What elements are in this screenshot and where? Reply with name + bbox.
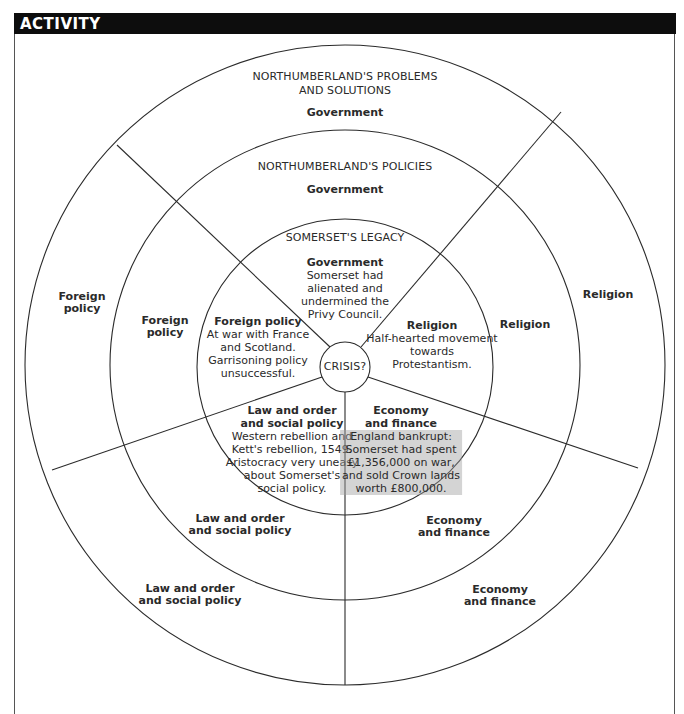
outer-ring-title-2: AND SOLUTIONS	[299, 84, 391, 97]
inner-foreign-line: unsuccessful.	[207, 367, 309, 380]
inner-law-line: Western rebellion and	[226, 430, 359, 443]
inner-foreign-line: At war with France	[207, 328, 309, 341]
outer-religion: Religion	[583, 288, 634, 301]
inner-ring-title: SOMERSET'S LEGACY	[286, 231, 405, 244]
inner-foreign-heading: Foreign policy	[207, 315, 309, 328]
inner-economy: Economy and finance England bankrupt: So…	[340, 404, 462, 495]
outer-economy-2: and finance	[464, 595, 536, 608]
inner-foreign: Foreign policy At war with France and Sc…	[207, 315, 309, 380]
outer-government: Government	[307, 106, 383, 119]
inner-law-line: Kett's rebellion, 1549.	[226, 443, 359, 456]
inner-religion-line: Half-hearted movement	[366, 332, 497, 345]
inner-economy-highlight: England bankrupt: Somerset had spent £1,…	[340, 430, 462, 495]
inner-foreign-line: and Scotland.	[207, 341, 309, 354]
middle-government: Government	[307, 183, 383, 196]
spoke-upper-right	[361, 112, 561, 347]
outer-ring-title-1: NORTHUMBERLAND'S PROBLEMS	[252, 70, 437, 83]
outer-foreign-2: policy	[64, 302, 101, 315]
inner-religion-heading: Religion	[366, 319, 497, 332]
inner-government-heading: Government	[301, 256, 389, 269]
inner-government: Government Somerset had alienated and un…	[301, 256, 389, 321]
outer-law-2: and social policy	[138, 594, 241, 607]
inner-government-line: alienated and	[301, 282, 389, 295]
inner-law-line: social policy.	[226, 482, 359, 495]
inner-economy-line: Somerset had spent	[342, 443, 460, 456]
inner-economy-line: worth £800,000.	[342, 482, 460, 495]
inner-law-heading-1: Law and order	[226, 404, 359, 417]
inner-government-line: undermined the	[301, 295, 389, 308]
inner-economy-heading-1: Economy	[340, 404, 462, 417]
inner-law-line: about Somerset's	[226, 469, 359, 482]
middle-law-2: and social policy	[188, 524, 291, 537]
inner-law: Law and order and social policy Western …	[226, 404, 359, 495]
inner-law-heading-2: and social policy	[226, 417, 359, 430]
inner-government-line: Somerset had	[301, 269, 389, 282]
middle-economy-2: and finance	[418, 526, 490, 539]
inner-religion-line: towards	[366, 345, 497, 358]
middle-ring-title: NORTHUMBERLAND'S POLICIES	[258, 160, 433, 173]
inner-foreign-line: Garrisoning policy	[207, 354, 309, 367]
inner-religion-line: Protestantism.	[366, 358, 497, 371]
inner-law-line: Aristocracy very uneasy	[226, 456, 359, 469]
crisis-label: CRISIS?	[324, 360, 366, 373]
inner-economy-heading-2: and finance	[340, 417, 462, 430]
middle-religion: Religion	[500, 318, 551, 331]
inner-economy-line: England bankrupt:	[342, 430, 460, 443]
inner-economy-line: and sold Crown lands	[342, 469, 460, 482]
inner-religion: Religion Half-hearted movement towards P…	[366, 319, 497, 371]
middle-foreign-2: policy	[147, 326, 184, 339]
inner-economy-line: £1,356,000 on war,	[342, 456, 460, 469]
